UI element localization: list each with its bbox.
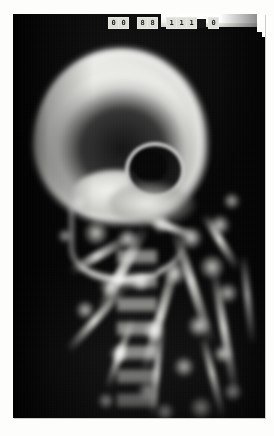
bone-highlight bbox=[137, 380, 159, 402]
label-character-group-b: 8 8 bbox=[137, 17, 158, 29]
label-cell: 1 bbox=[167, 18, 176, 28]
bone-highlight bbox=[109, 344, 129, 364]
label-cell: 1 bbox=[177, 18, 186, 28]
bone-highlight bbox=[213, 344, 233, 364]
label-cell: 1 bbox=[187, 18, 196, 28]
label-cell: 0 bbox=[209, 18, 218, 28]
bone-highlight bbox=[155, 402, 175, 418]
radiograph-film: 0 0 8 8 1 1 1 0 bbox=[13, 14, 265, 418]
bone-highlight bbox=[173, 356, 195, 378]
bone-highlight bbox=[223, 192, 241, 210]
film-corner-notch-step bbox=[262, 14, 265, 37]
bone-highlight bbox=[209, 214, 231, 236]
bone-highlight bbox=[163, 262, 187, 286]
bone-highlight bbox=[189, 396, 213, 418]
bone-highlight bbox=[199, 254, 225, 280]
orbit-inner-lucency bbox=[133, 150, 167, 182]
bone-highlight bbox=[179, 226, 203, 250]
bone-highlight bbox=[151, 214, 171, 234]
bone-highlight bbox=[131, 272, 151, 292]
film-label-strip: 0 0 8 8 1 1 1 0 bbox=[13, 14, 265, 36]
page-background: 0 0 8 8 1 1 1 0 bbox=[0, 0, 274, 436]
bone-highlight bbox=[143, 320, 165, 342]
label-cell: 8 bbox=[138, 18, 147, 28]
bone-highlight bbox=[223, 382, 243, 402]
bone-highlight bbox=[69, 194, 87, 212]
label-character-group-a: 0 0 bbox=[108, 17, 129, 29]
label-cell: 0 bbox=[119, 18, 128, 28]
label-dark-blip bbox=[197, 19, 206, 28]
label-cell: 8 bbox=[148, 18, 157, 28]
bone-highlight bbox=[83, 220, 109, 246]
bone-highlight bbox=[187, 314, 211, 338]
bone-highlight bbox=[97, 392, 115, 410]
label-cell: 0 bbox=[109, 18, 118, 28]
label-character-group-d: 0 bbox=[208, 17, 219, 29]
bone-highlight bbox=[217, 282, 239, 304]
bone-highlight bbox=[99, 276, 121, 298]
bone-highlight bbox=[117, 228, 139, 250]
label-character-group-c: 1 1 1 bbox=[166, 17, 197, 29]
bone-highlight bbox=[57, 228, 73, 244]
bone-highlight bbox=[75, 300, 95, 320]
